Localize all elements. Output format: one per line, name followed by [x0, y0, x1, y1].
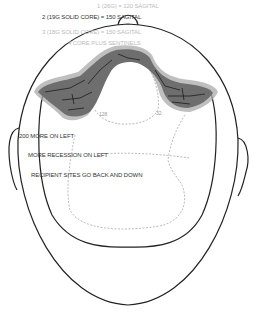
outer-head-outline	[18, 24, 238, 305]
note-recipient-sites: RECIPIENT SITES GO BACK AND DOWN	[31, 172, 142, 178]
right-ear	[238, 138, 248, 196]
dashed-zone-line	[100, 153, 190, 158]
note-more-on-left: 200 MORE ON LEFT	[19, 133, 74, 139]
note-graft-2: 2 (19G SOLID CORE) = 150 SAGITAL	[42, 14, 141, 20]
zone-label-128: 128	[99, 111, 107, 117]
note-more-recession: MORE RECESSION ON LEFT	[28, 152, 108, 158]
zone-label-32: 32	[156, 110, 162, 116]
note-graft-3: 3 (18G SOLID CORE) = 150 SAGITAL	[42, 29, 141, 35]
note-graft-1: 1 (26G) = 120 SAGITAL	[97, 3, 159, 9]
note-graft-4: 4 CORE PLUS SENTINELS	[68, 40, 141, 46]
left-ear	[9, 128, 19, 190]
